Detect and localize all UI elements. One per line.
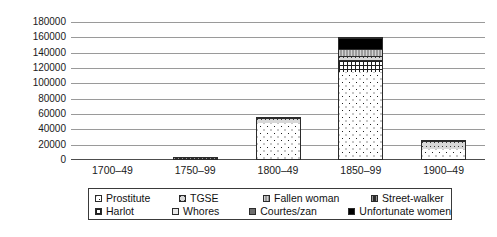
- legend-swatch-icon: [263, 195, 270, 202]
- legend-item-whores[interactable]: Whores: [172, 206, 249, 217]
- bar-1850-99: [338, 37, 383, 160]
- legend-label: Unfortunate women: [359, 206, 451, 217]
- y-tick-label: 60000: [10, 109, 66, 119]
- x-tick-label: 1900–49: [402, 162, 485, 180]
- y-tick-label: 0: [10, 155, 66, 165]
- y-tick-label: 40000: [10, 124, 66, 134]
- y-tick-label: 100000: [10, 78, 66, 88]
- bar-segment: [339, 49, 382, 56]
- gridline: [71, 53, 485, 54]
- legend-row: HarlotWhoresCourtes/zanUnfortunate women: [95, 205, 451, 218]
- legend-label: TGSE: [190, 193, 219, 204]
- x-tick-label: 1750–99: [154, 162, 237, 180]
- legend-label: Street-walker: [382, 193, 444, 204]
- bar-segment: [422, 149, 465, 159]
- x-axis: 1700–491750–991800–491850–991900–49: [71, 162, 485, 180]
- bar-chart: 1800001600001400001200001000008000060000…: [0, 0, 497, 180]
- legend-item-tgse[interactable]: TGSE: [179, 193, 263, 204]
- bar-segment: [339, 38, 382, 49]
- chart-legend: ProstituteTGSEFallen womanStreet-walkerH…: [88, 188, 452, 220]
- y-tick-label: 80000: [10, 94, 66, 104]
- bar-segment: [257, 123, 300, 159]
- bar-segment: [339, 72, 382, 159]
- legend-item-prostitute[interactable]: Prostitute: [95, 193, 179, 204]
- legend-label: Harlot: [106, 206, 134, 217]
- legend-swatch-icon: [179, 195, 186, 202]
- legend-item-fallen-woman[interactable]: Fallen woman: [263, 193, 371, 204]
- y-tick-label: 20000: [10, 140, 66, 150]
- legend-item-unfortunate-women[interactable]: Unfortunate women: [348, 206, 451, 217]
- gridline: [71, 68, 485, 69]
- x-tick-label: 1700–49: [71, 162, 154, 180]
- legend-swatch-icon: [95, 195, 102, 202]
- bar-segment: [174, 158, 217, 159]
- legend-swatch-icon: [95, 208, 102, 215]
- gridline: [71, 37, 485, 38]
- legend-label: Courtes/zan: [260, 206, 317, 217]
- bar-1800-49: [256, 117, 301, 160]
- legend-row: ProstituteTGSEFallen womanStreet-walker: [95, 192, 451, 205]
- gridline: [71, 99, 485, 100]
- legend-swatch-icon: [172, 208, 179, 215]
- y-tick-label: 140000: [10, 48, 66, 58]
- gridline: [71, 22, 485, 23]
- legend-label: Fallen woman: [274, 193, 339, 204]
- legend-item-street-walker[interactable]: Street-walker: [371, 193, 444, 204]
- legend-label: Prostitute: [106, 193, 150, 204]
- gridline: [71, 83, 485, 84]
- y-tick-label: 180000: [10, 17, 66, 27]
- x-tick-label: 1850–99: [319, 162, 402, 180]
- bar-1900-49: [421, 140, 466, 160]
- legend-swatch-icon: [371, 195, 378, 202]
- legend-swatch-icon: [348, 208, 355, 215]
- legend-swatch-icon: [249, 208, 256, 215]
- legend-label: Whores: [183, 206, 219, 217]
- bar-segment: [339, 60, 382, 71]
- gridline: [71, 114, 485, 115]
- x-tick-label: 1800–49: [237, 162, 320, 180]
- y-tick-label: 160000: [10, 32, 66, 42]
- legend-item-courtes-zan[interactable]: Courtes/zan: [249, 206, 348, 217]
- plot-area: [71, 22, 485, 160]
- y-axis: 1800001600001400001200001000008000060000…: [8, 0, 66, 180]
- bar-1750-99: [173, 157, 218, 160]
- y-tick-label: 120000: [10, 63, 66, 73]
- legend-item-harlot[interactable]: Harlot: [95, 206, 172, 217]
- bar-segment: [422, 141, 465, 149]
